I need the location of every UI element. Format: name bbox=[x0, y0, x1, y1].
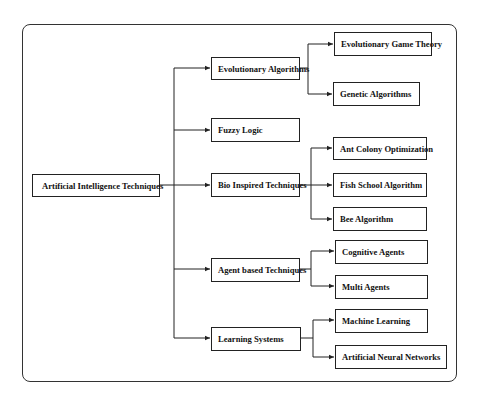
node-label: Artificial Neural Networks bbox=[342, 352, 440, 362]
node-label: Ant Colony Optimization bbox=[340, 144, 433, 154]
node-label: Machine Learning bbox=[342, 316, 410, 326]
node-label: Bee Algorithm bbox=[340, 214, 393, 224]
node-label: Artificial Intelligence Techniques bbox=[42, 181, 163, 191]
node-label: Fuzzy Logic bbox=[218, 125, 263, 135]
node-genetic-algorithms: Genetic Algorithms bbox=[333, 82, 420, 106]
node-label: Cognitive Agents bbox=[342, 247, 404, 257]
node-machine-learning: Machine Learning bbox=[335, 309, 428, 333]
node-ant-colony-optimization: Ant Colony Optimization bbox=[333, 137, 427, 160]
node-bee-algorithm: Bee Algorithm bbox=[333, 207, 427, 231]
node-fish-school-algorithm: Fish School Algorithm bbox=[333, 173, 427, 197]
node-label: Learning Systems bbox=[218, 334, 284, 344]
node-fuzzy-logic: Fuzzy Logic bbox=[211, 118, 300, 142]
node-evolutionary-algorithms: Evolutionary Algorithms bbox=[211, 57, 300, 80]
node-learning-systems: Learning Systems bbox=[211, 327, 301, 351]
node-cognitive-agents: Cognitive Agents bbox=[335, 240, 428, 264]
node-label: Genetic Algorithms bbox=[340, 89, 411, 99]
node-multi-agents: Multi Agents bbox=[335, 275, 428, 299]
node-label: Evolutionary Algorithms bbox=[218, 64, 309, 74]
node-label: Bio Inspired Techniques bbox=[218, 180, 307, 190]
node-evolutionary-game-theory: Evolutionary Game Theory bbox=[334, 32, 432, 56]
node-label: Evolutionary Game Theory bbox=[341, 39, 442, 49]
node-artificial-neural-networks: Artificial Neural Networks bbox=[335, 345, 447, 369]
node-label: Multi Agents bbox=[342, 282, 390, 292]
node-agent-based-techniques: Agent based Techniques bbox=[211, 258, 300, 282]
node-root-ai-techniques: Artificial Intelligence Techniques bbox=[32, 174, 160, 197]
node-bio-inspired-techniques: Bio Inspired Techniques bbox=[211, 173, 300, 197]
node-label: Fish School Algorithm bbox=[340, 180, 422, 190]
node-label: Agent based Techniques bbox=[218, 265, 306, 275]
